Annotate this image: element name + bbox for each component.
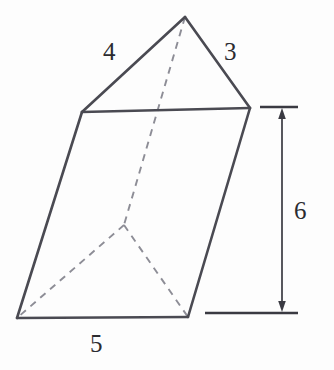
edge-label-5: 5 xyxy=(90,331,103,356)
edge-label-3: 3 xyxy=(224,39,237,64)
edge-left-lateral xyxy=(17,112,82,318)
dimension-arrowhead-bottom xyxy=(278,301,286,312)
edge-label-4: 4 xyxy=(103,39,116,64)
prism-drawing xyxy=(0,0,334,370)
prism-diagram: 4 3 5 6 xyxy=(0,0,334,370)
edge-top-right-slant xyxy=(185,17,250,108)
dimension-arrowhead-top xyxy=(278,108,286,119)
edge-top-horizontal xyxy=(82,108,250,112)
hidden-edge-back-base-to-bottom-left xyxy=(17,225,124,318)
edge-right-lateral xyxy=(188,108,250,317)
edge-bottom-front xyxy=(17,317,188,318)
hidden-edge-apex-to-back-base xyxy=(124,17,185,225)
height-label-6: 6 xyxy=(294,198,307,223)
solid-edges-group xyxy=(17,17,250,318)
hidden-edge-back-base-to-bottom-right xyxy=(124,225,188,317)
edge-top-left-slant xyxy=(82,17,185,112)
